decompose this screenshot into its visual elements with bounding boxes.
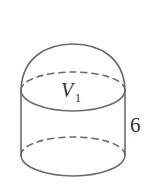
height-label: 6 — [130, 113, 141, 137]
lower-ellipse-back-dashed — [21, 137, 125, 155]
volume-label: V — [61, 79, 76, 101]
lower-ellipse-front — [21, 155, 125, 176]
hemisphere-cylinder-diagram: V 1 6 — [0, 0, 150, 195]
volume-label-subscript: 1 — [75, 91, 81, 105]
